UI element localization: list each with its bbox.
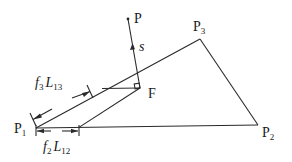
label-f2-l12: f2L12	[43, 140, 70, 156]
edge-p2-p3	[200, 39, 258, 125]
label-f3-l13: f3L13	[35, 76, 62, 92]
label-s: s	[139, 40, 144, 54]
s-direction-arrow-icon	[130, 43, 135, 50]
point-p-dot	[127, 18, 130, 21]
label-p2: P2	[262, 126, 274, 142]
label-p1-sub: 1	[22, 128, 27, 138]
label-p: P	[134, 12, 142, 26]
label-p3-base: P	[193, 19, 201, 34]
label-f2-sub: 2	[47, 146, 52, 156]
label-p3-sub: 3	[201, 26, 206, 36]
label-f3-sub: 3	[39, 82, 44, 92]
label-p2-base: P	[262, 125, 270, 140]
label-p3: P3	[193, 20, 205, 36]
label-p1-base: P	[14, 121, 22, 136]
f3l13-arrow-left-icon	[33, 114, 42, 120]
label-l12-sub: 12	[61, 146, 70, 156]
f2l12-arrow-right-icon	[71, 129, 78, 134]
parallel-line-to-p1p2	[102, 88, 140, 89]
label-f: F	[148, 87, 156, 101]
right-angle-marker	[134, 83, 140, 89]
label-p2-sub: 2	[270, 132, 275, 142]
label-l13-sub: 13	[53, 82, 62, 92]
f2l12-arrow-left-icon	[37, 129, 44, 134]
f3l13-arrow-right-icon	[82, 92, 90, 98]
label-p1: P1	[14, 122, 26, 138]
edge-p1-p2	[36, 125, 258, 128]
parallel-line-to-p1p3	[79, 88, 140, 127]
